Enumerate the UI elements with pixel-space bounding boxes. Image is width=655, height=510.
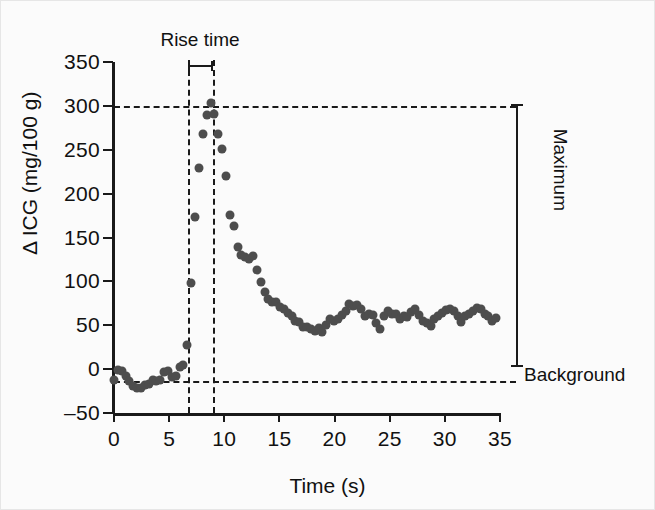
data-point [221,172,230,181]
data-point [156,375,165,384]
x-axis-title: Time (s) [0,474,655,498]
data-point [376,324,385,333]
y-tick-label: –50 [64,401,100,425]
y-tick-label: 300 [64,94,100,118]
data-point [171,372,180,381]
y-tick-label: 200 [64,182,100,206]
x-tick-label: 0 [108,427,120,451]
data-point [110,375,119,384]
data-point [256,278,265,287]
y-tick-label: 250 [64,138,100,162]
y-tick [103,105,113,107]
maximum-bracket-bar [516,104,518,367]
data-point [191,213,200,222]
x-tick-label: 20 [323,427,347,451]
maximum-bracket-bottom-cap [511,365,523,367]
x-tick-label: 10 [212,427,236,451]
x-tick [113,413,115,422]
data-point [187,279,196,288]
x-tick-label: 15 [267,427,291,451]
y-tick [103,237,113,239]
x-tick-label: 30 [433,427,457,451]
plot-area: –50050100150200250300350 05101520253035 [114,62,500,413]
data-point [210,109,219,118]
reference-line-rise-start [188,60,190,413]
x-tick [499,413,501,422]
data-point [218,144,227,153]
reference-line-maximum [114,106,516,108]
data-point [225,210,234,219]
data-point [492,314,501,323]
data-point [248,251,257,260]
y-axis-title: Δ ICG (mg/100 g) [18,92,42,255]
data-point [229,222,238,231]
x-tick [223,413,225,422]
x-tick-label: 25 [378,427,402,451]
y-tick [103,324,113,326]
data-point [214,129,223,138]
y-tick [103,149,113,151]
data-point [183,340,192,349]
data-point [194,164,203,173]
y-tick [103,412,113,414]
y-tick [103,280,113,282]
data-point [179,360,188,369]
y-tick-label: 100 [64,269,100,293]
figure-container: Δ ICG (mg/100 g) Time (s) Rise time Maxi… [0,0,655,510]
data-point [252,265,261,274]
background-label: Background [524,364,625,386]
x-tick [444,413,446,422]
x-tick [168,413,170,422]
maximum-label: Maximum [549,129,571,211]
y-tick-label: 150 [64,226,100,250]
data-point [206,99,215,108]
x-tick-label: 35 [488,427,512,451]
maximum-range-bracket [511,104,523,367]
y-tick [103,368,113,370]
x-tick [334,413,336,422]
y-tick-label: 0 [88,357,100,381]
y-tick-label: 50 [76,313,100,337]
reference-line-background [114,381,516,383]
x-tick-label: 5 [163,427,175,451]
y-tick [103,193,113,195]
rise-time-label: Rise time [160,29,239,51]
y-tick-label: 350 [64,50,100,74]
data-point [198,129,207,138]
y-tick [103,61,113,63]
x-tick [278,413,280,422]
x-tick [389,413,391,422]
